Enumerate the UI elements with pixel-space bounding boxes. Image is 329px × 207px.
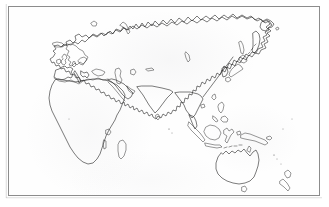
coastline-new-guinea	[241, 133, 268, 145]
region-kamchatka	[252, 31, 260, 53]
region-iceland	[53, 42, 64, 47]
region-indonesia	[188, 122, 242, 148]
coastline-australia	[216, 149, 259, 184]
map-canvas	[9, 7, 319, 195]
coastline-eurasia	[50, 16, 272, 119]
coastline-black-sea	[92, 69, 105, 76]
coastline-great-britain	[61, 54, 67, 65]
coastline-mindanao	[221, 116, 228, 122]
islet-speck	[169, 129, 170, 130]
region-new-zealand	[280, 170, 291, 191]
region-british-isles	[57, 54, 67, 65]
coastline-africa	[49, 79, 125, 164]
region-madagascar	[118, 140, 126, 159]
region-new-guinea	[241, 133, 272, 145]
coastline-luzon	[218, 102, 224, 113]
islet-speck	[292, 119, 293, 120]
world-outline-map-figure	[0, 0, 329, 207]
islet-speck	[274, 155, 275, 156]
water-lake-baikal	[185, 52, 190, 62]
coastline-sulawesi	[224, 128, 234, 143]
coastline-java	[205, 143, 222, 148]
islet-speck	[172, 133, 173, 134]
coastline-new-zealand-north	[285, 170, 291, 178]
coastline-lake-victoria	[106, 129, 111, 135]
map-frame-border	[8, 6, 320, 196]
coastline-persian-gulf	[127, 86, 135, 94]
coastline-palawan	[213, 116, 218, 122]
islet-speck	[281, 164, 282, 165]
coastline-madagascar	[118, 140, 126, 159]
region-indian-subcontinent	[137, 86, 173, 120]
coastline-hainan	[201, 104, 205, 108]
coastline-bering-islets	[276, 27, 279, 30]
coastline-new-zealand-south	[280, 179, 290, 191]
coastline-svalbard	[91, 21, 97, 26]
coastline-kyushu-shikoku	[226, 77, 231, 82]
islet-speck	[69, 119, 70, 120]
scan-edge-shadow-left	[5, 4, 7, 198]
coastline-iceland	[53, 42, 64, 47]
coastline-balkans-greece	[81, 71, 89, 78]
coastline-lake-balkhash	[146, 68, 154, 71]
coastline-new-britain	[267, 136, 272, 140]
water-inland-seas	[115, 68, 154, 84]
coastline-sakhalin	[239, 41, 244, 54]
region-eurasia	[50, 16, 272, 119]
coastline-eurasia-far-east	[222, 24, 270, 71]
region-east-asia	[203, 57, 233, 100]
coastline-kamchatka	[252, 31, 260, 53]
coastline-taiwan	[212, 94, 216, 100]
islet-speck	[277, 159, 278, 160]
islet-speck	[283, 129, 284, 130]
coastline-cape-york	[247, 146, 251, 152]
coastline-moluccas	[237, 131, 241, 135]
coastline-caspian-sea	[115, 68, 122, 84]
coastline-ireland	[57, 59, 61, 64]
region-southeast-asia-mainland	[175, 92, 205, 129]
coastline-indochina	[175, 92, 203, 118]
region-africa	[49, 79, 125, 164]
region-philippines	[213, 102, 228, 122]
coastline-aral-sea	[131, 69, 136, 75]
coastline-tasmania	[242, 186, 247, 192]
region-scandinavia	[66, 44, 88, 67]
coastline-india	[137, 86, 173, 113]
coastline-lake-baikal	[185, 52, 190, 62]
coastline-borneo	[204, 125, 221, 140]
coastline-lesser-sunda-islands	[224, 145, 242, 148]
scan-edge-shadow-bottom	[6, 197, 322, 199]
region-australia	[216, 146, 259, 192]
coastline-jutland	[72, 62, 76, 67]
